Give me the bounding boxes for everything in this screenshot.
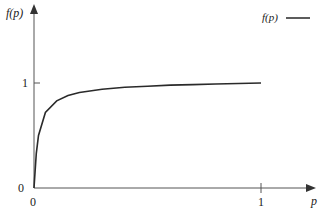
y-tick-label-1: 1 bbox=[22, 77, 28, 89]
legend-label: f(p) bbox=[262, 12, 278, 23]
chart-canvas bbox=[0, 0, 326, 221]
x-tick-label-0: 0 bbox=[30, 196, 36, 208]
x-axis-label: p bbox=[311, 195, 317, 207]
y-tick-label-0: 0 bbox=[18, 182, 24, 194]
y-axis-arrow-icon bbox=[30, 4, 38, 14]
x-tick-label-1: 1 bbox=[258, 196, 264, 208]
data-curve bbox=[34, 83, 261, 188]
y-axis-label: f(p) bbox=[6, 7, 23, 19]
x-axis-arrow-icon bbox=[306, 184, 316, 192]
